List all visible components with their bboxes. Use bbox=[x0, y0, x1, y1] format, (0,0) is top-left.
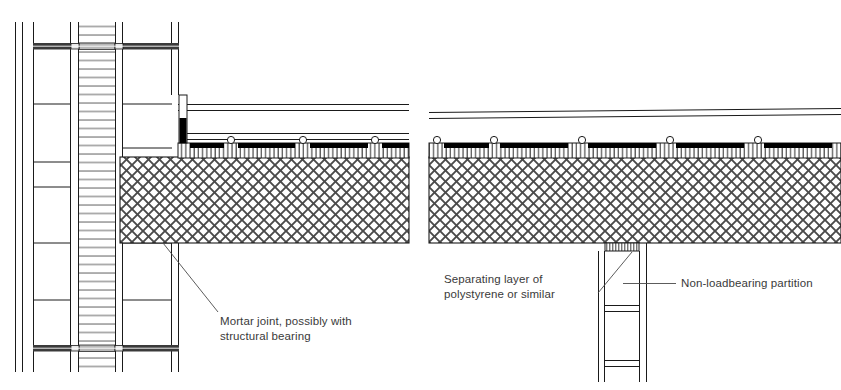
section-drawing bbox=[0, 0, 841, 390]
label-mortar-joint: Mortar joint, possibly with structural b… bbox=[220, 314, 352, 343]
label-non-loadbearing-partition: Non-loadbearing partition bbox=[681, 276, 813, 291]
wall-outer-skin bbox=[16, 22, 23, 372]
wall-cavity-insulation bbox=[78, 22, 116, 372]
mortar-joint-top bbox=[33, 43, 179, 50]
separating-layer-strip bbox=[605, 243, 639, 251]
label-separating-layer: Separating layer of polystyrene or simil… bbox=[444, 272, 555, 301]
wall-outer-leaf bbox=[33, 22, 71, 372]
mortar-joint-bottom bbox=[33, 345, 179, 352]
floor-finish-lines-left bbox=[178, 105, 409, 140]
floor-finish-lines-right bbox=[429, 109, 841, 119]
floor-slab-left bbox=[120, 157, 409, 243]
leader-separating-layer bbox=[598, 252, 632, 293]
edge-insulation-left bbox=[179, 95, 187, 143]
floor-slab-right bbox=[429, 157, 841, 243]
drawing-canvas: Mortar joint, possibly with structural b… bbox=[0, 0, 841, 390]
